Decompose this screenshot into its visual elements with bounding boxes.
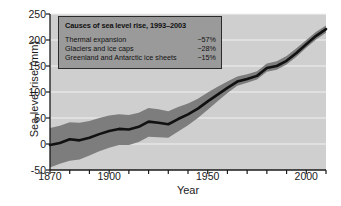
legend-row: Glaciers and ice caps~28% xyxy=(65,44,216,53)
legend-row-label: Greenland and Antarctic ice sheets xyxy=(65,53,182,62)
legend-title: Causes of sea level rise, 1993–2003 xyxy=(65,21,216,30)
legend-row-label: Thermal expansion xyxy=(65,35,132,44)
legend-row: Greenland and Antarctic ice sheets~15% xyxy=(65,53,216,62)
x-axis-tick-label: 2000 xyxy=(286,170,326,182)
legend-row-value: ~28% xyxy=(197,44,216,53)
legend-row-value: ~57% xyxy=(197,35,216,44)
x-axis-title: Year xyxy=(50,184,326,196)
x-axis-tick-label: 1900 xyxy=(89,170,129,182)
legend-box: Causes of sea level rise, 1993–2003 Ther… xyxy=(58,16,222,69)
legend-row: Thermal expansion~57% xyxy=(65,35,216,44)
x-axis-tick-label: 1870 xyxy=(30,170,70,182)
legend-row-label: Glaciers and ice caps xyxy=(65,44,140,53)
legend-rows: Thermal expansion~57%Glaciers and ice ca… xyxy=(65,35,216,63)
x-axis-tick-label: 1950 xyxy=(188,170,228,182)
y-axis-title: Sea level rise (mm) xyxy=(28,9,40,169)
sea-level-rise-chart: -50050100150200250 1870190019502000 Sea … xyxy=(0,0,341,206)
legend-row-value: ~15% xyxy=(197,53,216,62)
x-axis-tick-labels: 1870190019502000 xyxy=(0,170,341,184)
